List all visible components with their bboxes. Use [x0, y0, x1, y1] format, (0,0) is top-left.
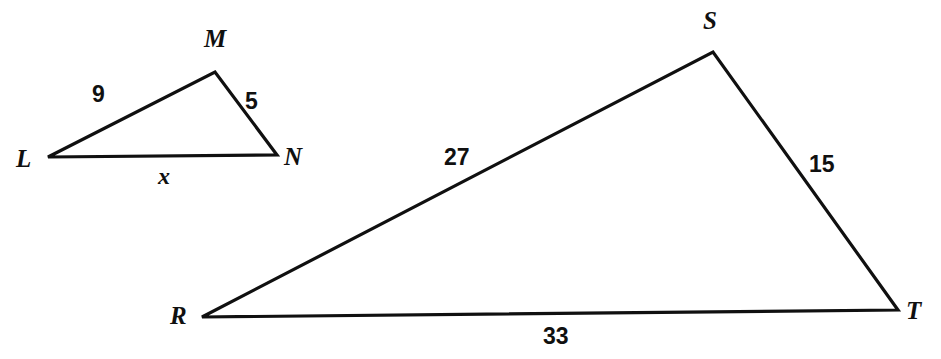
vertex-label-m: M — [204, 26, 226, 51]
triangle-rst-outline — [202, 52, 898, 317]
side-length-ln-unknown: x — [158, 164, 170, 188]
side-length-lm: 9 — [92, 83, 105, 106]
triangles-svg — [0, 0, 941, 359]
vertex-label-s: S — [703, 8, 717, 33]
vertex-label-l: L — [16, 146, 31, 171]
vertex-label-r: R — [170, 303, 187, 328]
side-length-rt: 33 — [543, 325, 569, 348]
vertex-label-n: N — [284, 144, 302, 169]
side-length-mn: 5 — [245, 90, 258, 113]
side-length-st: 15 — [809, 153, 835, 176]
vertex-label-t: T — [906, 298, 921, 323]
geometry-figure: L M N 9 5 x R S T 27 15 33 — [0, 0, 941, 359]
side-length-rs: 27 — [444, 146, 470, 169]
triangle-lmn-outline — [48, 72, 277, 157]
